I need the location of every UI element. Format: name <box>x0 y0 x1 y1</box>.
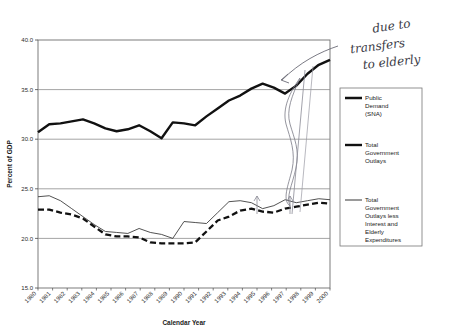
legend-label: Elderly <box>365 228 385 235</box>
x-tick-label: 1987 <box>126 290 140 304</box>
annotation-text: due to <box>371 16 411 35</box>
legend-label: Government <box>365 149 399 156</box>
x-tick-label: 1983 <box>67 290 81 304</box>
legend-label: Outlays <box>365 157 386 164</box>
x-tick-label: 2000 <box>316 290 330 304</box>
x-tick-label: 1984 <box>82 290 96 304</box>
chart-figure: 40.035.030.025.020.015.01980198119821983… <box>0 0 470 327</box>
annotation-text: transfers <box>349 36 405 57</box>
legend-label: Public <box>365 94 382 101</box>
legend-label: Demand <box>365 102 389 109</box>
legend-label: (SNA) <box>365 110 382 117</box>
x-tick-label: 1992 <box>199 290 213 304</box>
y-tick-label: 25.0 <box>21 186 33 192</box>
x-tick-label: 1999 <box>301 290 315 304</box>
x-tick-label: 1995 <box>243 290 257 304</box>
x-tick-label: 1993 <box>213 290 227 304</box>
legend-label: Total <box>365 141 378 148</box>
x-tick-label: 1988 <box>140 290 154 304</box>
x-tick-label: 1998 <box>286 290 300 304</box>
x-tick-label: 1989 <box>155 290 169 304</box>
plot-area <box>38 40 330 288</box>
y-tick-label: 30.0 <box>21 136 33 142</box>
x-tick-label: 1991 <box>184 290 198 304</box>
annotation-text: to elderly <box>362 52 421 72</box>
y-tick-label: 40.0 <box>21 37 33 43</box>
legend-label: Expenditures <box>365 236 401 243</box>
legend-label: Total <box>365 196 378 203</box>
chart-canvas: 40.035.030.025.020.015.01980198119821983… <box>0 0 470 327</box>
x-tick-label: 1981 <box>38 290 52 304</box>
x-tick-label: 1985 <box>97 290 111 304</box>
x-tick-label: 1982 <box>53 290 67 304</box>
y-tick-label: 35.0 <box>21 87 33 93</box>
x-tick-label: 1996 <box>257 290 271 304</box>
legend-label: Outlays less <box>365 212 399 219</box>
x-tick-label: 1994 <box>228 290 242 304</box>
x-axis-title: Calendar Year <box>162 319 206 326</box>
legend-label: Interest and <box>365 220 398 227</box>
x-tick-label: 1997 <box>272 290 286 304</box>
y-axis-title: Percent of GDP <box>6 140 13 188</box>
x-tick-label: 1986 <box>111 290 125 304</box>
x-tick-label: 1990 <box>170 290 184 304</box>
legend-label: Government <box>365 204 399 211</box>
y-tick-label: 20.0 <box>21 236 33 242</box>
x-tick-label: 1980 <box>24 290 38 304</box>
